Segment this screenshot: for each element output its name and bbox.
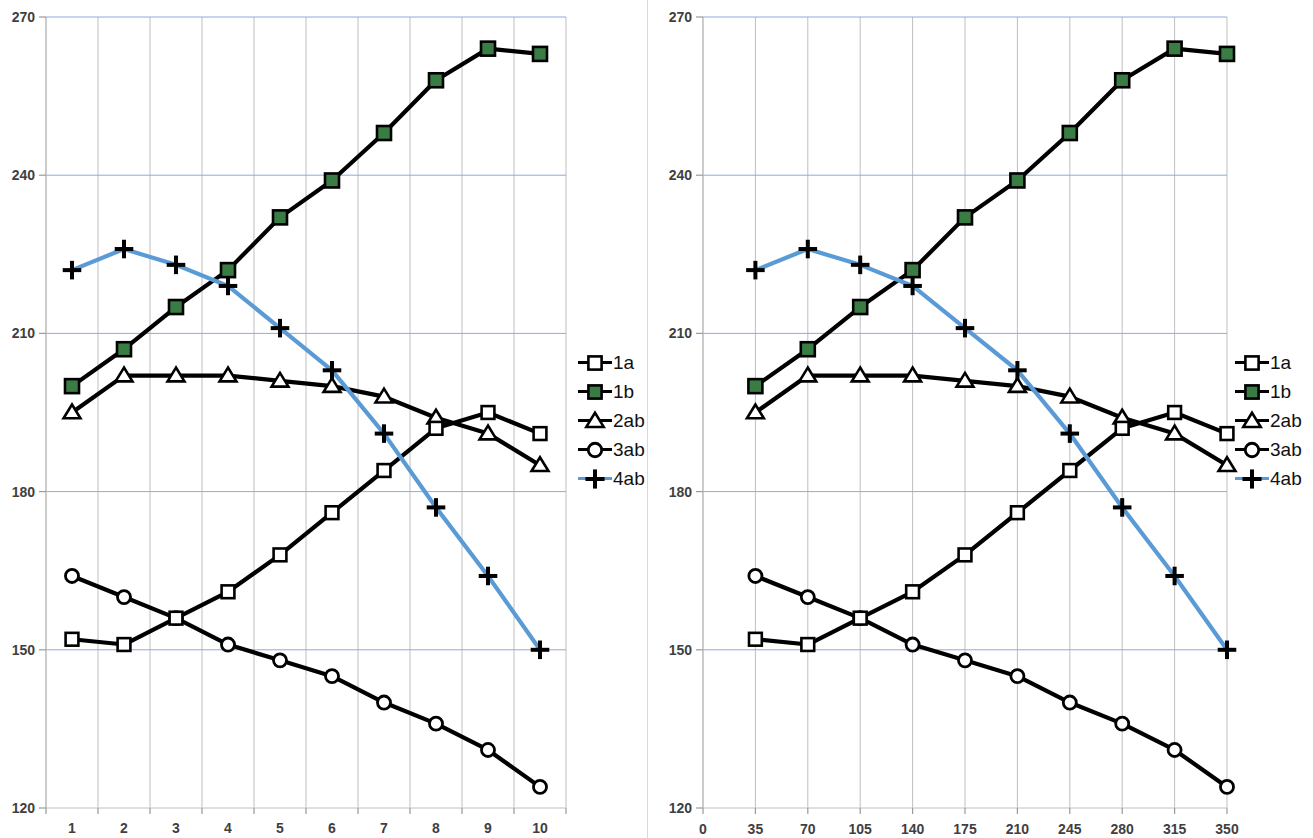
data-point-marker [748,379,762,393]
data-point-marker [906,638,919,651]
legend-item-2ab[interactable]: 2ab [578,406,645,435]
x-axis-tick-label: 280 [1111,821,1135,837]
x-axis-tick-label: 0 [699,821,707,837]
y-axis-tick-label: 180 [669,484,693,500]
legend-glyph [584,410,606,432]
legend-marker-open-square-icon [1235,352,1269,374]
data-point-marker [533,780,546,793]
data-point-marker [1168,406,1181,419]
legend-item-label: 1b [1270,382,1291,401]
data-point-marker [481,42,495,56]
legend-marker-open-circle-icon [578,439,612,461]
data-point-marker [273,210,287,224]
x-axis-tick-label: 3 [172,820,180,836]
data-point-marker [167,256,186,275]
series-line-4ab [755,249,1227,650]
legend-item-3ab[interactable]: 3ab [578,435,645,464]
data-point-marker [169,300,183,314]
x-axis: 03570105140175210245280315350 [699,808,1239,837]
data-point-marker [1221,427,1234,440]
x-axis-tick-label: 315 [1163,821,1187,837]
data-point-marker [746,261,765,280]
y-axis-tick-label: 120 [12,800,36,816]
x-axis-tick-label: 9 [484,820,492,836]
series-line-2ab [755,376,1227,466]
legend-item-label: 2ab [1270,411,1302,430]
chart-page: 12015018021024027012345678910 1a1b2ab3ab… [0,0,1313,838]
data-point-marker [588,385,601,398]
legend-item-1a[interactable]: 1a [578,348,645,377]
data-point-marker [377,126,391,140]
data-point-marker [1115,73,1129,87]
legend-glyph [1241,439,1263,461]
y-axis: 120150180210240270 [669,9,703,816]
y-axis-tick-label: 120 [669,800,693,816]
x-axis-tick-label: 175 [953,821,977,837]
y-axis-tick-label: 180 [12,484,36,500]
series-line-1a [755,413,1227,645]
legend-marker-plus-icon [578,468,612,490]
data-point-marker [853,300,867,314]
legend-glyph [584,439,606,461]
data-point-marker [1245,356,1258,369]
legend-item-1b[interactable]: 1b [578,377,645,406]
data-point-marker [117,342,131,356]
data-point-marker [588,443,601,456]
data-point-marker [221,638,234,651]
legend-glyph [1241,410,1263,432]
legend-item-label: 2ab [613,411,645,430]
data-point-marker [481,743,494,756]
data-point-marker [482,406,495,419]
x-axis-tick-label: 1 [68,820,76,836]
series-lines [755,49,1227,787]
x-axis-tick-label: 210 [1006,821,1030,837]
y-axis: 120150180210240270 [12,9,46,816]
data-point-marker [1220,47,1234,61]
x-axis-tick-label: 6 [328,820,336,836]
legend-glyph [584,381,606,403]
legend-item-1b[interactable]: 1b [1235,377,1302,406]
legend-item-4ab[interactable]: 4ab [578,464,645,493]
data-point-marker [906,585,919,598]
data-point-marker [430,422,443,435]
y-axis-tick-label: 210 [12,325,36,341]
data-point-marker [906,263,920,277]
legend-item-label: 1a [1270,353,1291,372]
y-axis-tick-label: 150 [669,642,693,658]
x-axis-tick-label: 105 [849,821,873,837]
legend-marker-open-triangle-icon [1235,410,1269,432]
data-point-marker [222,585,235,598]
data-point-marker [1063,126,1077,140]
x-axis-tick-label: 8 [432,820,440,836]
data-point-marker [429,717,442,730]
series-markers-1a [749,406,1233,651]
data-point-marker [1168,42,1182,56]
data-point-marker [799,240,818,259]
y-axis-tick-label: 270 [12,9,36,25]
data-point-marker [1242,469,1261,488]
legend-marker-plus-icon [1235,468,1269,490]
x-axis: 12345678910 [46,808,566,836]
data-point-marker [1116,717,1129,730]
x-axis-tick-label: 245 [1058,821,1082,837]
x-axis-tick-label: 7 [380,820,388,836]
legend-glyph [1241,381,1263,403]
data-point-marker [801,591,814,604]
y-axis-tick-label: 270 [669,9,693,25]
data-point-marker [326,506,339,519]
legend-marker-filled-square-icon [578,381,612,403]
legend-item-label: 4ab [613,469,645,488]
legend-item-2ab[interactable]: 2ab [1235,406,1302,435]
legend-item-3ab[interactable]: 3ab [1235,435,1302,464]
legend-item-label: 1b [613,382,634,401]
legend-item-label: 4ab [1270,469,1302,488]
data-point-marker [66,633,79,646]
data-point-marker [325,173,339,187]
data-point-marker [325,670,338,683]
data-point-marker [65,379,79,393]
x-axis-tick-label: 70 [800,821,816,837]
x-axis-tick-label: 2 [120,820,128,836]
legend-item-1a[interactable]: 1a [1235,348,1302,377]
legend-item-4ab[interactable]: 4ab [1235,464,1302,493]
data-point-marker [115,240,134,259]
